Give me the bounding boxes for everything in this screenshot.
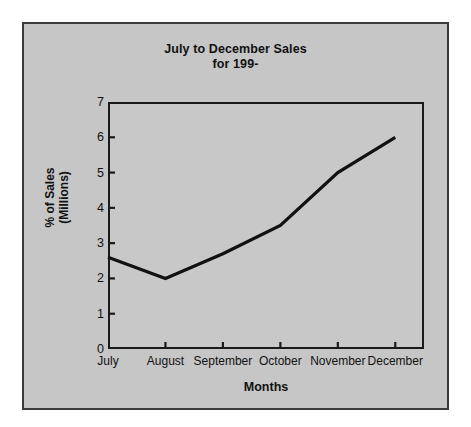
y-tick-label: 3: [82, 237, 104, 250]
x-axis-title: Months: [108, 380, 424, 394]
x-axis-tick-labels: JulyAugustSeptemberOctoberNovemberDecemb…: [108, 355, 424, 373]
x-tick-label: October: [259, 355, 302, 367]
y-axis-title: % of Sales (Millions): [44, 143, 71, 253]
plot-area: [108, 102, 424, 349]
y-tick-label: 4: [82, 202, 104, 215]
y-tick-label: 7: [82, 96, 104, 109]
x-tick-label: November: [310, 355, 365, 367]
y-tick-label: 2: [82, 272, 104, 285]
x-tick-label: July: [97, 355, 118, 367]
y-tick-label: 6: [82, 131, 104, 144]
y-tick-label: 5: [82, 166, 104, 179]
sales-line-series: [108, 137, 395, 278]
y-axis-ticks: [108, 137, 115, 313]
x-axis-ticks: [165, 342, 395, 349]
chart-title: July to December Sales for 199-: [24, 42, 447, 71]
chart-title-line-1: July to December Sales: [24, 42, 447, 57]
x-tick-label: December: [368, 355, 423, 367]
chart-figure: July to December Sales for 199- % of Sal…: [22, 22, 449, 410]
y-axis-tick-labels: 01234567: [76, 102, 104, 349]
y-axis-title-line-1: % of Sales: [44, 143, 58, 253]
x-tick-label: September: [194, 355, 253, 367]
chart-title-line-2: for 199-: [24, 57, 447, 72]
x-tick-label: August: [147, 355, 184, 367]
y-axis-title-line-2: (Millions): [57, 143, 71, 253]
y-tick-label: 1: [82, 307, 104, 320]
